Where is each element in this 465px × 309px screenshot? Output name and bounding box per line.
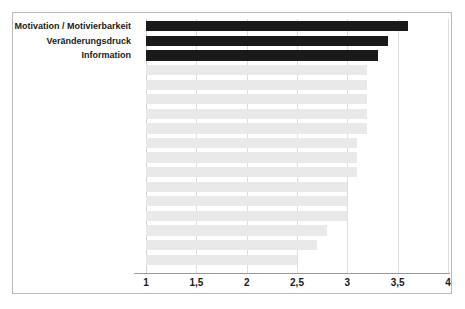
category-label: Veränderungsdruck [46,36,131,46]
bar [146,123,367,133]
bar-row [134,165,450,180]
bar-row [134,92,450,107]
bar [146,240,317,250]
bar [146,211,347,221]
x-tick-label: 1 [143,277,149,288]
bar-highlighted [146,36,388,46]
bar-row [134,19,450,34]
bar [146,152,357,162]
x-tick-label: 2 [244,277,250,288]
bar-row [134,252,450,267]
plot-area [134,19,450,273]
bar [146,109,367,119]
bar-row [134,77,450,92]
bar [146,255,297,265]
bar [146,80,367,90]
bar [146,225,327,235]
x-axis-tick-labels: 11,522,533,54 [134,277,450,293]
bar-highlighted [146,50,378,60]
x-tick-label: 1,5 [189,277,203,288]
x-tick-label: 3 [345,277,351,288]
category-label: Information [82,50,132,60]
bar [146,196,347,206]
bar-highlighted [146,21,408,31]
bar-row [134,48,450,63]
x-tick-label: 3,5 [391,277,405,288]
bar-row [134,107,450,122]
bar [146,65,367,75]
bar-row [134,209,450,224]
category-label: Motivation / Motivierbarkeit [14,21,131,31]
x-tick-label: 2,5 [290,277,304,288]
x-axis-line [134,273,450,274]
bar-row [134,238,450,253]
bar-series [134,19,450,273]
x-tick-label: 4 [445,277,451,288]
bar [146,94,367,104]
bar-row [134,223,450,238]
chart-figure: Motivation / MotivierbarkeitVeränderungs… [12,12,452,294]
bar-row [134,179,450,194]
bar-row [134,63,450,78]
bar [146,167,357,177]
bar-row [134,194,450,209]
bar [146,182,347,192]
bar-row [134,34,450,49]
bar-row [134,121,450,136]
bar-row [134,136,450,151]
bar [146,138,357,148]
bar-row [134,150,450,165]
